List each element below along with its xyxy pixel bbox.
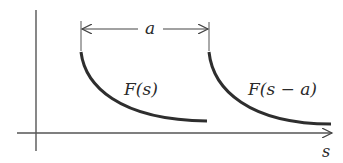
shift-label-a: a [145,18,155,38]
shift-diagram: s a F(s) F(s − a) [0,0,343,163]
curve-label-F-s-minus-a: F(s − a) [247,79,317,99]
s-axis-label: s [322,142,330,161]
curve-label-F-s: F(s) [123,79,158,99]
